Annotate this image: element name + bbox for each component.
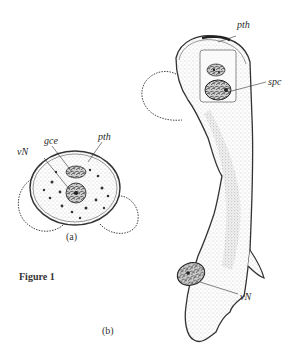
label-vN-b: vN: [240, 292, 251, 302]
stalk-cell: [207, 64, 225, 76]
figure-drawing: [0, 0, 300, 358]
label-pth-a: pth: [98, 132, 111, 142]
figure-title: Figure 1: [19, 272, 55, 282]
label-pth-b: pth: [237, 20, 250, 30]
caption-b: (b): [102, 326, 114, 336]
label-spc: spc: [268, 77, 281, 87]
pollen-grain-a: [18, 142, 138, 233]
air-sac-b: [142, 71, 182, 120]
caption-a: (a): [66, 232, 77, 242]
label-gce: gce: [44, 136, 58, 146]
label-vN-a: vN: [17, 147, 28, 157]
